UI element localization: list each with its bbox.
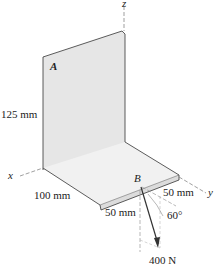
arrow-head-icon <box>154 237 160 248</box>
y-axis-label: y <box>207 186 213 198</box>
depth-dimension-label: 100 mm <box>34 189 71 201</box>
offset-b-x-label: 50 mm <box>105 206 136 218</box>
angle-label: 60° <box>167 209 182 221</box>
point-b-label: B <box>134 172 141 184</box>
z-axis-label: z <box>121 0 127 9</box>
force-label: 400 N <box>149 254 176 266</box>
statics-diagram: z A x y 125 mm 100 mm 50 mm 50 mm B 60° … <box>0 0 219 268</box>
offset-b-y-label: 50 mm <box>163 186 194 198</box>
plate-a-label: A <box>49 60 57 72</box>
x-axis <box>20 168 43 176</box>
height-dimension-label: 125 mm <box>1 108 38 120</box>
x-axis-label: x <box>7 169 13 181</box>
